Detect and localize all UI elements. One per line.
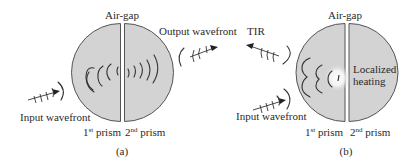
prism-wavefront-diagram: Air-gap Output wavefront Input wavefront… bbox=[0, 0, 416, 165]
output-wavefront-arrow-a bbox=[179, 45, 218, 66]
input-wavefront-arrow-a bbox=[28, 82, 63, 103]
first-prism-label-b: 1st prism bbox=[305, 126, 343, 138]
second-prism-a bbox=[125, 24, 174, 122]
input-wavefront-label-a: Input wavefront bbox=[20, 111, 91, 123]
first-prism-label-a: 1st prism bbox=[83, 126, 121, 138]
caption-b: (b) bbox=[340, 145, 353, 158]
tir-arrow bbox=[246, 43, 290, 64]
panel-b: Air-gap TIR Input wavefront Localized he… bbox=[236, 9, 399, 158]
second-prism-label-a: 2nd prism bbox=[125, 126, 166, 138]
air-gap-label-a: Air-gap bbox=[105, 9, 139, 21]
output-wavefront-label: Output wavefront bbox=[159, 25, 237, 37]
tir-label: TIR bbox=[247, 25, 265, 37]
first-prism-a bbox=[72, 24, 121, 122]
input-wavefront-label-b: Input wavefront bbox=[236, 110, 307, 122]
panel-a: Air-gap Output wavefront Input wavefront… bbox=[20, 9, 237, 158]
caption-a: (a) bbox=[116, 145, 129, 158]
second-prism-label-b: 2nd prism bbox=[350, 126, 391, 138]
air-gap-label-b: Air-gap bbox=[328, 9, 362, 21]
